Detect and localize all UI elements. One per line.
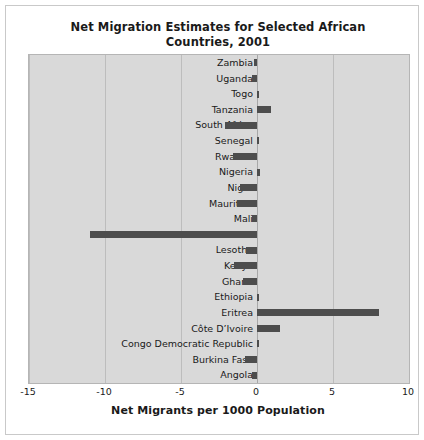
chart-title-line1: Net Migration Estimates for Selected Afr… bbox=[71, 20, 366, 34]
chart-title-line2: Countries, 2001 bbox=[166, 35, 270, 49]
bar-category-label: Tanzania bbox=[212, 102, 257, 118]
bar-row: South Africa bbox=[29, 117, 409, 133]
bar-row: Ghana bbox=[29, 274, 409, 290]
bar bbox=[257, 325, 280, 332]
x-axis-tick-labels: -15-10-50510 bbox=[28, 386, 410, 402]
figure-frame: Net Migration Estimates for Selected Afr… bbox=[5, 5, 419, 435]
plot-area: ZambiaUgandaTogoTanzaniaSouth AfricaSene… bbox=[28, 54, 410, 384]
bar bbox=[245, 356, 257, 363]
bar bbox=[252, 215, 257, 222]
x-tick-label: -10 bbox=[96, 386, 112, 397]
x-tick-label: -15 bbox=[20, 386, 36, 397]
bar-row: Rwanda bbox=[29, 149, 409, 165]
bar bbox=[257, 137, 259, 144]
bar-row: Senegal bbox=[29, 133, 409, 149]
bar bbox=[252, 372, 257, 379]
x-tick-label: 10 bbox=[402, 386, 414, 397]
bar bbox=[257, 340, 259, 347]
bar-row: Niger bbox=[29, 180, 409, 196]
bar-category-label: Côte D’Ivoire bbox=[191, 321, 257, 337]
bar-row: Liberia bbox=[29, 227, 409, 243]
bar-row: Angola bbox=[29, 367, 409, 383]
bar bbox=[257, 91, 259, 98]
bar bbox=[246, 247, 257, 254]
bar bbox=[90, 231, 257, 238]
bar-category-label: Uganda bbox=[216, 71, 257, 87]
chart-title: Net Migration Estimates for Selected Afr… bbox=[26, 20, 410, 49]
bar bbox=[257, 169, 260, 176]
x-tick-label: 5 bbox=[329, 386, 335, 397]
x-tick-label: 0 bbox=[253, 386, 259, 397]
bar-row: Kenya bbox=[29, 258, 409, 274]
bar-row: Nigeria bbox=[29, 164, 409, 180]
bar bbox=[240, 184, 257, 191]
bar-category-label: Ethiopia bbox=[214, 289, 257, 305]
bar-category-label: Togo bbox=[231, 86, 257, 102]
bar-row: Tanzania bbox=[29, 102, 409, 118]
bar bbox=[252, 75, 257, 82]
bar bbox=[225, 122, 257, 129]
figure-canvas: Net Migration Estimates for Selected Afr… bbox=[0, 0, 424, 440]
bar-row: Côte D’Ivoire bbox=[29, 321, 409, 337]
bar-row: Togo bbox=[29, 86, 409, 102]
bar bbox=[243, 278, 257, 285]
bar-category-label: Eritrea bbox=[221, 305, 257, 321]
bar-category-label: Senegal bbox=[215, 133, 257, 149]
bar-row: Mauritius bbox=[29, 196, 409, 212]
bar bbox=[257, 309, 379, 316]
bar bbox=[233, 153, 257, 160]
bar bbox=[257, 106, 271, 113]
gridline-10 bbox=[409, 55, 410, 383]
bar-row: Uganda bbox=[29, 71, 409, 87]
bar-category-label: Congo Democratic Republic bbox=[121, 336, 257, 352]
bar bbox=[237, 200, 257, 207]
x-tick-label: -5 bbox=[175, 386, 184, 397]
bar bbox=[254, 59, 257, 66]
bar-row: Lesotho bbox=[29, 242, 409, 258]
bar-row: Ethiopia bbox=[29, 289, 409, 305]
bar bbox=[234, 262, 257, 269]
bar-category-label: Zambia bbox=[217, 55, 257, 71]
bar-row: Eritrea bbox=[29, 305, 409, 321]
bar-category-label: Nigeria bbox=[219, 164, 257, 180]
bar-row: Zambia bbox=[29, 55, 409, 71]
bar bbox=[257, 294, 259, 301]
x-axis-title: Net Migrants per 1000 Population bbox=[26, 404, 410, 417]
bar-row: Congo Democratic Republic bbox=[29, 336, 409, 352]
bar-row: Mali bbox=[29, 211, 409, 227]
bar-row: Burkina Faso bbox=[29, 352, 409, 368]
